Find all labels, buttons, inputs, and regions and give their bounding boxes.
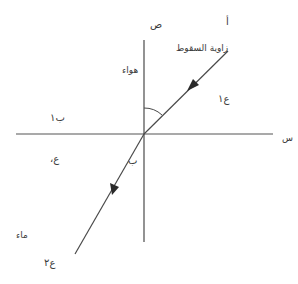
refracted-ray xyxy=(75,134,144,254)
angle-2-label: ع٢ xyxy=(44,258,55,268)
water-label: ماء xyxy=(16,231,28,240)
angle-left-label: ع، xyxy=(50,154,59,164)
angle-1-label: ع١ xyxy=(218,94,229,104)
incidence-angle-label: زاوية السقوط xyxy=(176,44,228,53)
point-b1-label: ب١ xyxy=(50,113,65,123)
y-axis-label: ص xyxy=(150,20,162,30)
incident-ray xyxy=(144,51,228,134)
refraction-diagram xyxy=(0,0,298,284)
point-b-label: ب xyxy=(128,156,137,166)
incidence-angle-arc xyxy=(144,108,162,115)
point-a-label: أ xyxy=(226,17,229,27)
x-axis-label: س xyxy=(282,134,293,143)
air-label: هواء xyxy=(122,66,138,75)
